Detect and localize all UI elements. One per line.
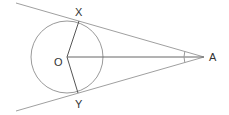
radius-oy [67,57,78,93]
tangent-line-ax [16,3,204,57]
label-y: Y [75,98,83,110]
label-o: O [54,56,63,68]
label-x: X [75,6,83,18]
diagram-canvas: X O Y A [0,0,229,115]
label-a: A [209,51,217,63]
tangent-line-ay [16,57,204,111]
tangent-diagram: X O Y A [0,0,229,115]
radius-ox [67,21,79,57]
